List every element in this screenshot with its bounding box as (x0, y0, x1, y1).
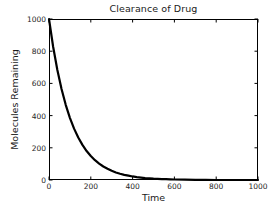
y-tick-label: 0 (41, 176, 46, 185)
data-line-1 (49, 19, 258, 180)
x-tick-label: 1000 (248, 182, 267, 191)
x-tick-label: 800 (209, 182, 223, 191)
y-tick-label: 600 (32, 79, 46, 88)
x-axis-label: Time (49, 192, 258, 203)
figure-canvas: Clearance of Drug 02004006008001000 0200… (0, 0, 279, 211)
y-tick-label: 800 (32, 47, 46, 56)
y-tick-label: 1000 (27, 15, 46, 24)
x-tick-label: 200 (84, 182, 98, 191)
x-tick-label: 600 (167, 182, 181, 191)
x-tick-label: 400 (125, 182, 139, 191)
y-tick-label: 200 (32, 143, 46, 152)
tick-marks (49, 19, 258, 180)
x-tick-label: 0 (47, 182, 52, 191)
data-series-group (49, 19, 258, 180)
y-tick-label: 400 (32, 111, 46, 120)
y-axis-label: Molecules Remaining (8, 19, 22, 180)
